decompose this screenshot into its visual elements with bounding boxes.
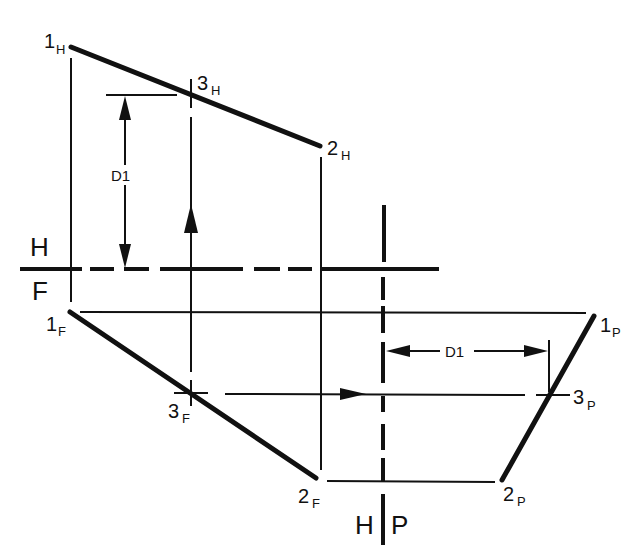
point-label-2H: 2 H xyxy=(327,137,350,163)
svg-text:3: 3 xyxy=(573,386,584,408)
point-label-1H: 1 H xyxy=(44,30,65,57)
svg-text:1: 1 xyxy=(44,30,55,52)
dimension-label-vertical: D1 xyxy=(111,167,130,184)
projector-2F-2P xyxy=(327,481,495,482)
projector-1F-1P xyxy=(80,312,586,313)
svg-text:H: H xyxy=(211,83,220,98)
auxiliary-view-diagram: D1 D1 H F H P 1 H 3 H 2 xyxy=(0,0,636,555)
svg-text:2: 2 xyxy=(503,483,514,505)
point-label-2P: 2 P xyxy=(503,483,526,509)
svg-text:H: H xyxy=(56,42,65,57)
svg-text:P: P xyxy=(517,494,526,509)
dimension-label-horizontal: D1 xyxy=(445,343,464,360)
arrow-up-icon xyxy=(184,204,198,233)
svg-text:P: P xyxy=(612,325,621,340)
arrow-icon xyxy=(340,388,366,400)
projector-3F-3P xyxy=(225,394,525,395)
svg-text:P: P xyxy=(587,398,596,413)
point-label-1F: 1 F xyxy=(46,313,66,339)
fold-label-p: P xyxy=(391,510,408,540)
point-label-3P: 3 P xyxy=(573,386,596,413)
arrow-right-icon xyxy=(524,345,548,357)
line-1H-2H xyxy=(71,47,320,146)
arrow-down-icon xyxy=(119,244,131,268)
svg-text:F: F xyxy=(312,496,320,511)
svg-text:2: 2 xyxy=(327,137,338,159)
svg-text:H: H xyxy=(341,148,350,163)
point-label-2F: 2 F xyxy=(298,485,320,511)
point-label-3H: 3 H xyxy=(197,72,220,98)
svg-text:1: 1 xyxy=(46,313,57,335)
arrow-up-icon xyxy=(119,96,131,120)
fold-label-h: H xyxy=(30,232,49,262)
svg-text:3: 3 xyxy=(168,400,179,422)
svg-text:1: 1 xyxy=(600,314,611,336)
fold-label-h2: H xyxy=(355,510,374,540)
svg-text:3: 3 xyxy=(197,72,208,94)
point-label-3F: 3 F xyxy=(168,400,190,426)
svg-text:2: 2 xyxy=(298,485,309,507)
arrow-left-icon xyxy=(386,345,410,357)
svg-text:F: F xyxy=(58,324,66,339)
point-label-1P: 1 P xyxy=(600,314,621,340)
fold-line-hp xyxy=(383,205,384,545)
svg-text:F: F xyxy=(182,411,190,426)
fold-label-f: F xyxy=(32,276,48,306)
